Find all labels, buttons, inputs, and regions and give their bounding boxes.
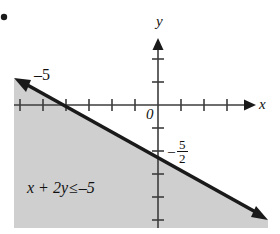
y-axis-label: y bbox=[156, 14, 163, 29]
fraction-numerator: 5 bbox=[177, 138, 188, 151]
x-intercept-label: –5 bbox=[34, 67, 50, 83]
y-intercept-minus-sign: – bbox=[168, 145, 175, 159]
fraction-denominator: 2 bbox=[177, 152, 188, 165]
inequality-graph-figure: x y 0 –5 – 5 2 x + 2y≤–5 bbox=[0, 0, 280, 234]
graph-canvas bbox=[0, 0, 280, 234]
inequality-left-side: x + 2y bbox=[27, 179, 68, 196]
shaded-solution-region bbox=[14, 79, 268, 228]
inequality-operator: ≤ bbox=[68, 179, 79, 196]
y-intercept-fraction: 5 2 bbox=[177, 138, 188, 166]
inequality-region-label: x + 2y≤–5 bbox=[27, 180, 95, 196]
inequality-right-side: –5 bbox=[79, 179, 95, 196]
origin-label: 0 bbox=[146, 107, 154, 122]
x-axis-label: x bbox=[259, 97, 266, 112]
bullet-marker bbox=[1, 14, 7, 20]
y-intercept-label: – 5 2 bbox=[168, 138, 188, 166]
